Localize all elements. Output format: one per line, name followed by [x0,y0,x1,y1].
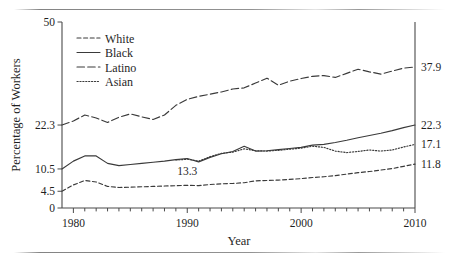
chart-annotations: 13.3 [177,165,197,177]
y-tick-label: 0 [49,202,55,214]
annotation-label: 13.3 [177,165,197,177]
y-axis-title: Percentage of Workers [9,58,23,171]
x-tick-label: 1990 [176,217,199,229]
series-line-asian [176,144,415,161]
series-end-labels: 37.922.317.111.8 [421,61,441,170]
legend-label-black: Black [105,46,133,60]
y-tick-label: 22.3 [35,119,55,131]
end-label-asian: 17.1 [421,138,441,150]
x-axis-tick-labels: 1980199020002010 [62,217,427,229]
series-line-black [62,125,415,169]
chart-legend: WhiteBlackLatinoAsian [77,32,136,90]
series-line-white [62,164,415,191]
y-tick-label: 4.5 [41,185,56,197]
x-tick-label: 1980 [62,217,85,229]
x-tick-label: 2010 [404,217,427,229]
x-axis-title: Year [227,234,251,248]
y-axis-tick-labels: 04.510.522.350 [35,16,55,214]
end-label-white: 11.8 [421,158,441,170]
chart-svg: 04.510.522.350 1980199020002010 37.922.3… [0,0,459,269]
y-tick-label: 10.5 [35,163,55,175]
end-label-latino: 37.9 [421,61,441,73]
line-chart: 04.510.522.350 1980199020002010 37.922.3… [0,0,459,269]
end-label-black: 22.3 [421,119,441,131]
legend-label-latino: Latino [105,61,136,75]
legend-label-white: White [105,32,134,46]
legend-label-asian: Asian [105,75,133,89]
y-tick-label: 50 [44,16,56,28]
x-tick-label: 2000 [290,217,313,229]
